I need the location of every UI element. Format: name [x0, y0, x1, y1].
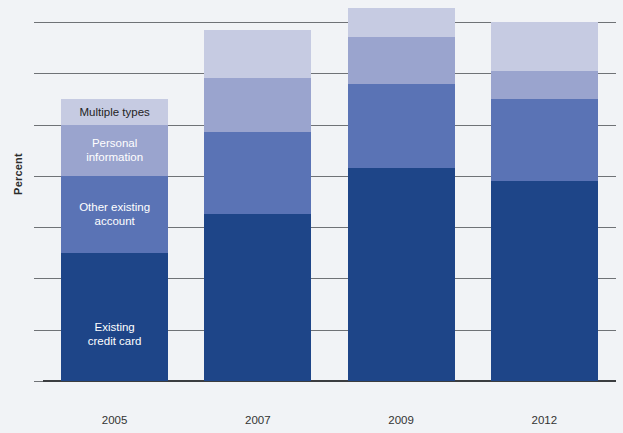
- bar-2009[interactable]: [348, 22, 455, 381]
- bar-segment-2005-3[interactable]: [61, 99, 168, 125]
- bar-segment-2005-2[interactable]: [61, 125, 168, 176]
- bar-segment-2007-2[interactable]: [204, 78, 311, 132]
- plot-area: 01234567 Multiple typesPersonalinformati…: [43, 22, 616, 381]
- y-tick-mark: [34, 381, 43, 382]
- bar-segment-2012-1[interactable]: [491, 99, 598, 181]
- bar-segment-2007-1[interactable]: [204, 132, 311, 214]
- y-tick-mark: [34, 73, 43, 74]
- y-tick-mark: [34, 330, 43, 331]
- stacked-bar-chart: Percent 01234567 Multiple typesPersonali…: [0, 0, 623, 433]
- bar-segment-2012-2[interactable]: [491, 71, 598, 99]
- bar-segment-2009-2[interactable]: [348, 37, 455, 83]
- bar-segment-2012-3[interactable]: [491, 22, 598, 71]
- x-tick-label-2012: 2012: [504, 414, 584, 426]
- bar-segment-2007-3[interactable]: [204, 30, 311, 79]
- x-tick-label-2005: 2005: [75, 414, 155, 426]
- bar-2005[interactable]: Multiple typesPersonalinformationOther e…: [61, 22, 168, 381]
- y-tick-mark: [34, 22, 43, 23]
- bar-segment-2012-0[interactable]: [491, 181, 598, 381]
- bar-2012[interactable]: [491, 22, 598, 381]
- bar-segment-2005-0[interactable]: [61, 253, 168, 381]
- y-tick-mark: [34, 227, 43, 228]
- bar-segment-2009-1[interactable]: [348, 84, 455, 169]
- bar-segment-2005-1[interactable]: [61, 176, 168, 253]
- y-tick-mark: [34, 176, 43, 177]
- y-axis-title: Percent: [12, 134, 24, 214]
- y-tick-mark: [34, 278, 43, 279]
- bar-segment-2009-3[interactable]: [348, 8, 455, 38]
- y-tick-mark: [34, 125, 43, 126]
- bar-segment-2009-0[interactable]: [348, 168, 455, 381]
- x-tick-label-2009: 2009: [361, 414, 441, 426]
- bar-2007[interactable]: [204, 22, 311, 381]
- x-tick-label-2007: 2007: [218, 414, 298, 426]
- bar-segment-2007-0[interactable]: [204, 214, 311, 381]
